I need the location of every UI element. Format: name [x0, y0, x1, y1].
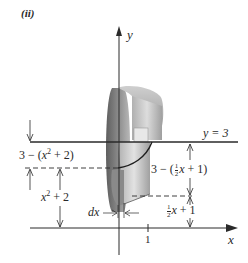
right-outer-gap-label: 3 − (12x + 1) — [151, 163, 207, 178]
washer-method-figure: (ii) y x 1 y = 3 3 − (x2 + 2) x2 + 2 3 −… — [0, 0, 248, 263]
label-part: + 2 — [50, 190, 69, 204]
frac-den: 2 — [175, 171, 179, 178]
left-outer-gap-label: 3 − (x2 + 2) — [19, 148, 74, 161]
solid-of-revolution — [106, 86, 163, 212]
right-inner-label: 12x + 1 — [166, 204, 196, 219]
y-axis-label: y — [127, 28, 133, 41]
label-part: 3 − ( — [19, 148, 42, 162]
label-part: + 1) — [185, 162, 208, 176]
x-axis-arrow-icon — [226, 224, 238, 232]
x-axis-label: x — [228, 233, 234, 246]
label-part: + 2) — [51, 148, 74, 162]
label-part: + 1 — [177, 203, 196, 217]
dx-label: dx — [88, 206, 99, 218]
y-equals-3-label: y = 3 — [203, 127, 228, 139]
panel-label: (ii) — [21, 8, 34, 19]
y-axis-arrow-icon — [116, 26, 122, 36]
frac-den: 2 — [167, 212, 171, 219]
fraction-half: 12 — [167, 204, 171, 219]
fraction-half: 12 — [175, 163, 179, 178]
x-tick-label-1: 1 — [145, 234, 151, 245]
label-part: 3 − ( — [151, 162, 174, 176]
left-inner-label: x2 + 2 — [41, 190, 69, 203]
